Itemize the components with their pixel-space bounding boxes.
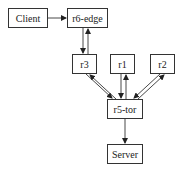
node-label: Server xyxy=(112,149,138,160)
node-r6-edge: r6-edge xyxy=(67,8,108,28)
node-r1: r1 xyxy=(110,54,135,74)
node-r3: r3 xyxy=(72,54,97,74)
node-label: r1 xyxy=(118,59,126,70)
node-label: r2 xyxy=(158,59,166,70)
node-client: Client xyxy=(8,8,48,28)
node-r2: r2 xyxy=(150,54,175,74)
edge-r3-r5tor xyxy=(86,74,112,98)
node-label: r6-edge xyxy=(72,13,103,24)
node-label: Client xyxy=(16,13,40,24)
node-server: Server xyxy=(107,144,143,164)
edge-r5tor-r3 xyxy=(90,75,116,99)
node-label: r5-tor xyxy=(114,104,137,115)
edge-r5tor-r2 xyxy=(138,75,164,99)
edge-r2-r5tor xyxy=(134,74,160,98)
node-label: r3 xyxy=(80,59,88,70)
node-r5-tor: r5-tor xyxy=(107,99,143,119)
